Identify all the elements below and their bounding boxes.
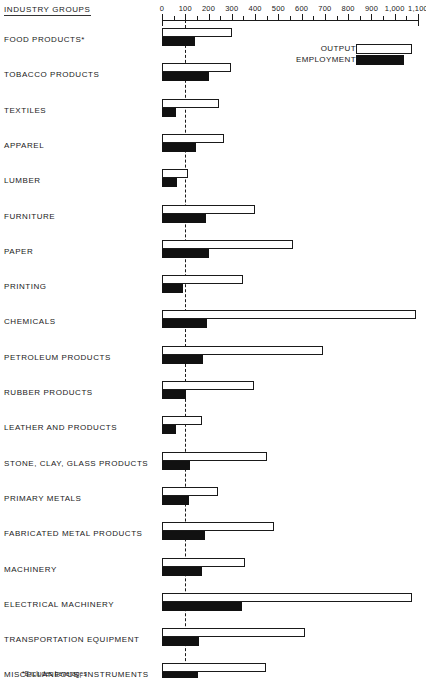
- bar-output: [162, 487, 218, 496]
- x-axis-tick-mark: [325, 14, 326, 20]
- bar-employment: [162, 214, 206, 223]
- chart-root: INDUSTRY GROUPS 010020030040050060070080…: [0, 0, 426, 678]
- category-label: PAPER: [4, 247, 33, 256]
- bar-employment: [162, 37, 195, 46]
- category-label: TEXTILES: [4, 106, 46, 115]
- bar-output: [162, 134, 224, 143]
- bar-output: [162, 381, 254, 390]
- x-axis-tick-mark: [383, 16, 384, 20]
- legend-swatch-employment: [356, 55, 404, 65]
- legend-item[interactable]: OUTPUT: [286, 44, 418, 55]
- x-axis-tick-mark: [337, 16, 338, 20]
- bar-output: [162, 205, 255, 214]
- bar-output: [162, 593, 412, 602]
- category-label: APPAREL: [4, 141, 44, 150]
- x-axis-tick-mark: [185, 14, 186, 20]
- bar-output: [162, 63, 231, 72]
- category-label: TRANSPORTATION EQUIPMENT: [4, 635, 139, 644]
- bar-employment: [162, 143, 196, 152]
- x-axis-tick-mark: [371, 14, 372, 20]
- category-label: FABRICATED METAL PRODUCTS: [4, 529, 143, 538]
- category-label: LEATHER AND PRODUCTS: [4, 423, 117, 432]
- x-axis-end-cap: [162, 20, 163, 26]
- x-axis-tick-mark: [174, 16, 175, 20]
- bar-employment: [162, 602, 242, 611]
- x-axis-tick-mark: [406, 16, 407, 20]
- x-axis-tick-mark: [232, 14, 233, 20]
- category-label: PETROLEUM PRODUCTS: [4, 353, 111, 362]
- category-label: RUBBER PRODUCTS: [4, 388, 93, 397]
- category-label: ELECTRICAL MACHINERY: [4, 600, 114, 609]
- bar-employment: [162, 319, 207, 328]
- bar-output: [162, 416, 202, 425]
- x-axis-end-cap: [418, 20, 419, 26]
- bar-employment: [162, 567, 202, 576]
- category-label: PRIMARY METALS: [4, 494, 82, 503]
- x-axis-tick-mark: [360, 16, 361, 20]
- x-axis-tick-mark: [209, 14, 210, 20]
- bar-output: [162, 346, 323, 355]
- bar-employment: [162, 108, 176, 117]
- bar-employment: [162, 461, 190, 470]
- bar-employment: [162, 496, 189, 505]
- category-label: TOBACCO PRODUCTS: [4, 70, 99, 79]
- bar-employment: [162, 72, 209, 81]
- x-axis-tick-mark: [243, 16, 244, 20]
- legend: OUTPUTEMPLOYMENT: [286, 44, 418, 70]
- category-label: LUMBER: [4, 176, 41, 185]
- legend-item[interactable]: EMPLOYMENT: [286, 55, 418, 66]
- legend-label: EMPLOYMENT: [296, 55, 356, 64]
- bar-employment: [162, 672, 198, 678]
- bar-output: [162, 275, 243, 284]
- x-axis-tick-mark: [348, 14, 349, 20]
- category-label: MACHINERY: [4, 565, 57, 574]
- category-label: FURNITURE: [4, 212, 55, 221]
- bar-employment: [162, 390, 186, 399]
- bar-employment: [162, 178, 177, 187]
- bar-output: [162, 99, 219, 108]
- bar-output: [162, 522, 274, 531]
- plot-area: FOOD PRODUCTS*TOBACCO PRODUCTSTEXTILESAP…: [0, 0, 426, 678]
- x-axis-tick-mark: [313, 16, 314, 20]
- bar-output: [162, 310, 416, 319]
- bar-employment: [162, 637, 199, 646]
- bar-employment: [162, 249, 209, 258]
- bar-output: [162, 452, 267, 461]
- bar-output: [162, 169, 188, 178]
- x-axis-tick-mark: [395, 14, 396, 20]
- x-axis-tick-mark: [220, 16, 221, 20]
- bar-output: [162, 558, 245, 567]
- legend-swatch-output: [356, 44, 412, 54]
- x-axis-tick-mark: [302, 14, 303, 20]
- x-axis-tick-mark: [290, 16, 291, 20]
- bar-employment: [162, 531, 205, 540]
- legend-label: OUTPUT: [321, 44, 356, 53]
- x-axis-tick-mark: [197, 16, 198, 20]
- bar-output: [162, 663, 266, 672]
- category-label: PRINTING: [4, 282, 47, 291]
- x-axis-tick-mark: [255, 14, 256, 20]
- footnote: *Excludes beverages: [22, 670, 87, 677]
- category-label: FOOD PRODUCTS*: [4, 35, 85, 44]
- bar-employment: [162, 355, 203, 364]
- bar-employment: [162, 425, 176, 434]
- bar-output: [162, 240, 293, 249]
- x-axis-tick-mark: [267, 16, 268, 20]
- bar-output: [162, 628, 305, 637]
- bar-employment: [162, 284, 183, 293]
- category-label: CHEMICALS: [4, 317, 56, 326]
- category-label: STONE, CLAY, GLASS PRODUCTS: [4, 459, 148, 468]
- bar-output: [162, 28, 232, 37]
- x-axis-tick-mark: [278, 14, 279, 20]
